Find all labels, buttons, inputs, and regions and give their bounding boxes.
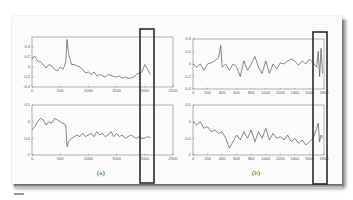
y-tick-label: 0.4 [24,44,30,49]
data-line [193,122,323,149]
caption-a: (a) [97,169,105,177]
plot-b-top: 020040060080010001200140016001800-0.4-0.… [184,36,329,95]
axes-frame [193,39,324,89]
data-line [32,118,150,146]
y-tick-label: 0 [189,119,192,124]
y-tick-label: -0.5 [184,136,192,141]
x-tick-label: 0 [192,156,195,161]
x-tick-label: 500 [57,156,64,161]
x-tick-label: 1000 [84,156,94,161]
x-tick-label: 1400 [290,90,300,95]
y-tick-label: -0.5 [23,136,31,141]
x-tick-label: 400 [219,156,226,161]
x-tick-label: 1000 [261,156,271,161]
x-tick-label: 1000 [84,88,94,93]
y-tick-label: -0.4 [23,84,31,89]
y-tick-label: 0.4 [185,36,191,41]
x-tick-label: 0 [31,88,34,93]
y-tick-label: 0.5 [24,102,30,107]
x-tick-label: 1000 [261,90,271,95]
x-tick-label: 1400 [290,156,300,161]
x-tick-label: 2000 [140,88,150,93]
x-tick-label: 2000 [140,156,150,161]
x-tick-label: 1500 [112,88,122,93]
x-tick-label: 200 [204,90,211,95]
x-tick-label: 200 [204,156,211,161]
x-tick-label: 2500 [169,88,179,93]
figure-canvas: 05001000150020002500-0.4-0.200.20.4 0500… [0,0,353,200]
x-tick-label: 0 [192,90,195,95]
plot-a-bottom: 05001000150020002500-1-0.500.5 [23,102,178,161]
y-tick-label: 0.5 [185,102,191,107]
y-tick-label: 0.2 [24,54,30,59]
x-tick-label: 1500 [112,156,122,161]
axes-frame [32,37,173,87]
x-tick-label: 600 [233,90,240,95]
x-tick-label: 800 [248,156,255,161]
x-tick-label: 1200 [276,90,286,95]
plot-b-bottom: 020040060080010001200140016001800-1-0.50… [184,102,329,161]
x-tick-label: 400 [219,90,226,95]
caption-b: (b) [252,169,261,177]
x-tick-label: 2500 [169,156,179,161]
x-tick-label: 0 [31,156,34,161]
x-tick-label: 800 [248,90,255,95]
axes-frame [32,105,173,155]
data-line [32,40,150,79]
plot-a-top: 05001000150020002500-0.4-0.200.20.4 [23,37,178,93]
highlight-box-b [313,32,327,184]
y-tick-label: -0.2 [23,74,31,79]
x-tick-label: 600 [233,156,240,161]
y-tick-label: 0.2 [185,49,191,54]
y-tick-label: 0 [28,64,31,69]
y-tick-label: -0.2 [184,74,192,79]
y-tick-label: -0.4 [184,86,192,91]
data-line [193,45,323,76]
axes-frame [193,105,324,155]
y-tick-label: 0 [28,119,31,124]
y-tick-label: 0 [189,61,192,66]
x-tick-label: 1200 [276,156,286,161]
x-tick-label: 500 [57,88,64,93]
